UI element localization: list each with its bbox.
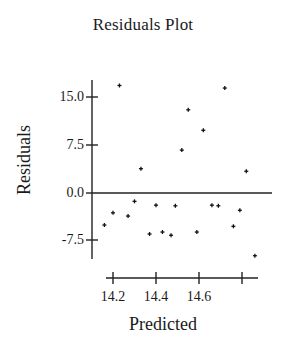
data-point-marker xyxy=(195,230,199,234)
data-point-marker xyxy=(139,167,143,171)
data-point-marker xyxy=(126,214,130,218)
data-point-marker xyxy=(186,108,190,112)
plot-area xyxy=(0,0,286,358)
data-point-marker xyxy=(111,211,115,215)
data-point-marker xyxy=(210,203,214,207)
data-point-marker xyxy=(231,224,235,228)
data-point-marker xyxy=(133,199,137,203)
data-point-marker xyxy=(216,204,220,208)
data-point-marker xyxy=(223,86,227,90)
data-point-marker xyxy=(148,232,152,236)
data-point-marker xyxy=(253,254,257,258)
data-point-marker xyxy=(244,169,248,173)
data-point-marker xyxy=(169,233,173,237)
data-point-marker xyxy=(180,148,184,152)
data-point-marker xyxy=(154,203,158,207)
data-point-marker xyxy=(117,83,121,87)
data-point-marker xyxy=(238,208,242,212)
data-point-marker xyxy=(102,223,106,227)
data-point-marker xyxy=(160,230,164,234)
data-point-marker xyxy=(173,204,177,208)
data-points xyxy=(102,83,257,257)
data-point-marker xyxy=(201,128,205,132)
